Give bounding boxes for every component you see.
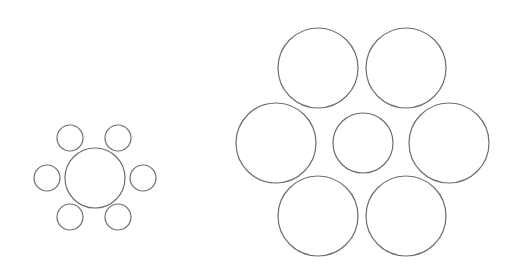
small-surround-group [34,125,156,230]
surround-circle [105,204,131,230]
surround-circle [57,125,83,151]
surround-circle [278,28,358,108]
surround-circle [366,28,446,108]
surround-circle [130,165,156,191]
ebbinghaus-illusion-diagram [0,0,514,278]
surround-circle [236,103,316,183]
surround-circle [409,103,489,183]
center-circle [65,148,125,208]
surround-circle [278,176,358,256]
center-circle [333,113,393,173]
surround-circle [57,204,83,230]
large-surround-group [236,28,489,256]
surround-circle [105,125,131,151]
surround-circle [366,176,446,256]
surround-circle [34,165,60,191]
